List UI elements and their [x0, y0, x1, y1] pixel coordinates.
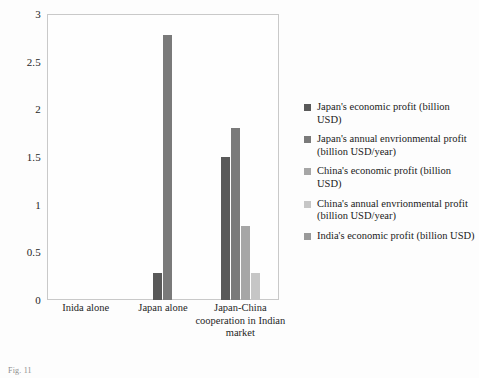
chart-figure: 00.511.522.53 Inida aloneJapan aloneJapa… [0, 0, 479, 378]
legend-label: Japan's annual envrionmental profit (bil… [317, 133, 476, 158]
bar-group [47, 14, 124, 300]
figure-caption: Fig. 11 [8, 366, 32, 375]
y-axis-tick: 1 [35, 199, 41, 211]
legend-label: China's annual envrionmental profit (bil… [317, 198, 476, 223]
x-axis-labels: Inida aloneJapan aloneJapan-China cooper… [47, 302, 279, 364]
y-axis-tick: 3 [35, 8, 41, 20]
legend-swatch-icon [304, 104, 311, 111]
bar-group [124, 14, 201, 300]
legend-swatch-icon [304, 168, 311, 175]
legend-item: Japan's annual envrionmental profit (bil… [304, 133, 476, 158]
bar [221, 157, 230, 300]
legend-swatch-icon [304, 136, 311, 143]
legend-swatch-icon [304, 233, 311, 240]
legend-item: China's annual envrionmental profit (bil… [304, 198, 476, 223]
bar [241, 226, 250, 300]
bars-layer [47, 14, 279, 300]
plot-area [47, 14, 279, 300]
y-axis-tick: 2.5 [27, 56, 41, 68]
bar [251, 273, 260, 300]
bar [163, 35, 172, 300]
bar-group [202, 14, 279, 300]
legend-item: China's economic profit (billion USD) [304, 165, 476, 190]
y-axis-tick: 2 [35, 103, 41, 115]
legend-label: Japan's economic profit (billion USD) [317, 101, 476, 126]
y-axis-tick: 1.5 [27, 151, 41, 163]
bar [153, 273, 162, 300]
x-axis-label: Japan-China cooperation in Indian market [190, 302, 291, 340]
bar [231, 128, 240, 300]
legend-swatch-icon [304, 201, 311, 208]
legend-item: India's economic profit (billion USD) [304, 230, 476, 243]
legend-label: India's economic profit (billion USD) [317, 230, 475, 243]
chart-legend: Japan's economic profit (billion USD)Jap… [304, 101, 476, 249]
legend-item: Japan's economic profit (billion USD) [304, 101, 476, 126]
y-axis: 00.511.522.53 [0, 14, 45, 300]
y-axis-tick: 0.5 [27, 246, 41, 258]
legend-label: China's economic profit (billion USD) [317, 165, 476, 190]
